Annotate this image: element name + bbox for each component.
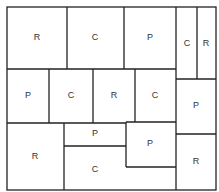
cell-label-r2c2: C xyxy=(68,90,75,100)
cell-label-r2c1: P xyxy=(25,90,31,100)
cell-label-r2c3: R xyxy=(111,90,118,100)
cell-label-r3c4: C xyxy=(92,164,99,174)
cell-label-r1c3: P xyxy=(147,32,153,42)
cell-label-r1c2: C xyxy=(92,32,99,42)
cell-label-r3c3: P xyxy=(147,138,153,148)
cell-label-r1c5: R xyxy=(203,38,210,48)
cell-label-r1c4: C xyxy=(184,38,191,48)
cell-label-r3c5: R xyxy=(193,156,200,166)
cell-label-r2c4: C xyxy=(152,90,159,100)
cell-label-r2c5: P xyxy=(193,100,199,110)
cell-label-r1c1: R xyxy=(34,32,41,42)
layout-diagram: RCPCRPCRCPRPPCR xyxy=(0,0,219,192)
cell-label-r3c2: P xyxy=(92,128,98,138)
cell-label-r3c1: R xyxy=(32,151,39,161)
